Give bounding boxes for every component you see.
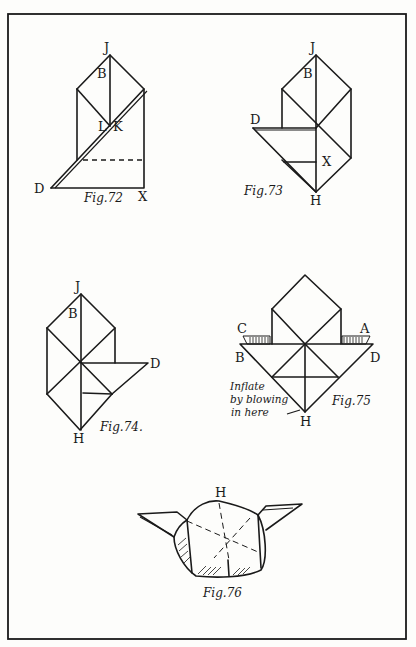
fig74-label-j: J: [73, 279, 80, 294]
fig75-note-line3: in here: [231, 406, 269, 418]
figure-73: J B D X H Fig.73: [243, 40, 351, 208]
fig72-label-x: X: [138, 189, 148, 204]
fig75-label-a: A: [359, 321, 370, 336]
fig75-label-c: C: [237, 321, 247, 336]
fig72-label-d: D: [34, 181, 44, 196]
fig75-label-h: H: [300, 414, 311, 429]
fig72-caption: Fig.72: [83, 191, 123, 205]
fig72-label-b: B: [97, 66, 107, 81]
fig75-note-line1: Inflate: [229, 380, 265, 392]
fig74-label-d: D: [150, 356, 160, 371]
fig73-caption: Fig.73: [243, 184, 283, 198]
fig75-label-b: B: [235, 350, 245, 365]
fig74-label-b: B: [68, 306, 78, 321]
fig75-note-line2: by blowing: [230, 393, 289, 405]
fig73-label-j: J: [308, 40, 315, 55]
fig72-label-k: K: [113, 119, 123, 134]
figure-74: J B D H Fig.74.: [47, 279, 160, 446]
fig72-label-j: J: [102, 40, 109, 55]
illustration-plate: J B L K D X Fig.72 J B D X H Fig.73 J B: [0, 0, 416, 647]
origami-diagram: J B L K D X Fig.72 J B D X H Fig.73 J B: [0, 0, 416, 647]
figure-76: H Fig.76: [138, 485, 302, 600]
fig76-caption: Fig.76: [202, 586, 242, 600]
fig73-label-h: H: [310, 193, 321, 208]
fig73-label-x: X: [322, 154, 332, 169]
fig76-label-h: H: [215, 485, 226, 500]
plate-border: [8, 14, 406, 639]
fig74-label-h: H: [73, 431, 84, 446]
figure-72: J B L K D X Fig.72: [34, 40, 148, 205]
fig73-label-d: D: [250, 112, 260, 127]
fig75-arrow-icon: [287, 410, 300, 414]
fig75-label-d: D: [370, 350, 380, 365]
figure-75: C A B D H Inflate by blowing in here Fig…: [229, 275, 380, 429]
fig73-label-b: B: [303, 66, 313, 81]
fig72-label-l: L: [98, 119, 107, 134]
fig75-caption: Fig.75: [331, 394, 371, 408]
fig74-caption: Fig.74.: [99, 420, 143, 434]
